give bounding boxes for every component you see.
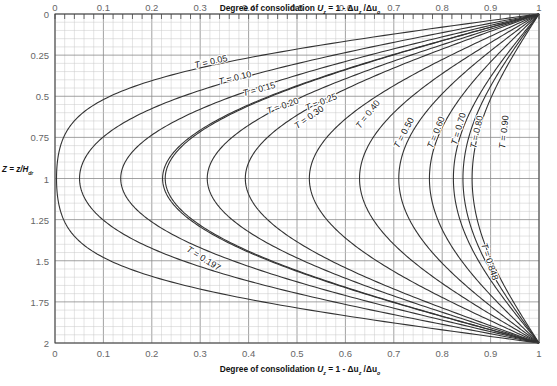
curve-label: T = 0.60: [425, 115, 447, 150]
y-axis-title: Z = z/Hdr: [2, 163, 33, 176]
y-tick: 1: [44, 174, 49, 185]
y-tick: 0.75: [31, 132, 50, 143]
y-tick: 0.5: [36, 91, 49, 102]
x-tick-top: 0.2: [145, 2, 158, 13]
y-tick: 1.75: [31, 297, 50, 308]
curve-label: T = 0.80: [468, 115, 485, 150]
x-tick-top: 1: [536, 2, 541, 13]
x-tick-top: 0.9: [484, 2, 497, 13]
x-tick-bottom: 0.9: [484, 348, 497, 359]
x-tick-bottom: 0.1: [97, 348, 110, 359]
y-tick: 1.5: [36, 256, 49, 267]
x-tick-bottom: 0.3: [194, 348, 207, 359]
x-tick-bottom: 0.6: [339, 348, 352, 359]
x-tick-bottom: 0.4: [242, 348, 255, 359]
top-axis-title: Degree of consolidation Uz = 1 - Δuz /Δu…: [186, 2, 415, 15]
curve-label: T = 0.40: [354, 98, 382, 130]
y-tick: 1.25: [31, 215, 50, 226]
consolidation-chart: T = 0.05T = 0.10T = 0.15T = 0.20T = 0.19…: [0, 0, 557, 386]
x-tick-bottom: 0.8: [436, 348, 449, 359]
x-tick-top: 0.1: [97, 2, 110, 13]
curve-label: T = 0.05: [194, 53, 229, 70]
curve-label: T = 0.20: [265, 95, 300, 116]
curve-label: T = 0.848: [479, 242, 500, 281]
x-tick-top: 0.8: [436, 2, 449, 13]
x-tick-bottom: 0.2: [145, 348, 158, 359]
curve-label: T = 0.90: [497, 115, 510, 149]
tick-labels: 000.10.10.20.20.30.30.40.40.50.50.60.60.…: [31, 2, 542, 359]
x-tick-bottom: 0.7: [387, 348, 400, 359]
y-tick: 2: [44, 338, 49, 349]
bottom-axis-title: Degree of consolidation Uz = 1 - Δuz /Δu…: [186, 363, 415, 376]
x-tick-bottom: 0.5: [290, 348, 303, 359]
x-tick-bottom: 1: [536, 348, 541, 359]
y-tick: 0: [44, 9, 49, 20]
y-tick: 0.25: [31, 50, 50, 61]
x-tick-bottom: 0: [52, 348, 57, 359]
x-tick-top: 0: [52, 2, 57, 13]
